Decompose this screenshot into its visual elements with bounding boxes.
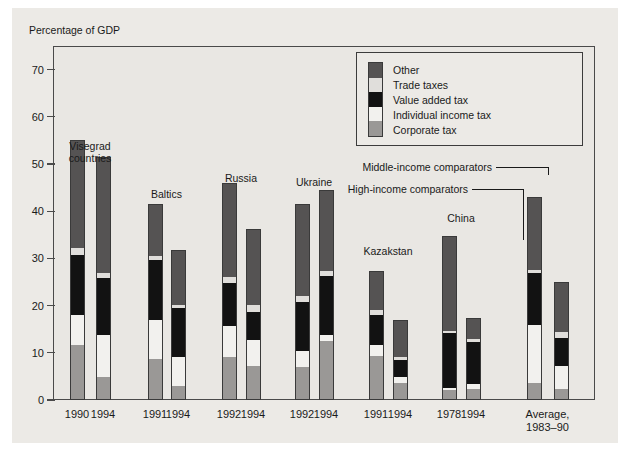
x-tick-label-5: 1994 <box>241 408 265 421</box>
legend-swatch-column <box>368 62 383 137</box>
bar-11-segment-other <box>466 318 481 339</box>
annotation-leader-h-1 <box>472 189 523 190</box>
bar-10 <box>442 236 457 400</box>
bar-2-segment-corp <box>148 359 163 400</box>
bar-4-segment-other <box>222 183 237 277</box>
bar-7-segment-other <box>319 190 334 271</box>
group-label-china: China <box>447 212 474 224</box>
bar-6-segment-iit <box>295 351 310 367</box>
bar-0-segment-corp <box>70 345 85 400</box>
legend: Other Trade taxes Value added tax Indivi… <box>356 52 583 146</box>
bar-0-segment-vat <box>70 255 85 315</box>
bar-13-segment-other <box>554 282 569 332</box>
bar-7 <box>319 190 334 400</box>
bar-6-segment-other <box>295 204 310 296</box>
legend-swatch-corp <box>369 121 382 136</box>
bar-4 <box>222 183 237 400</box>
bar-10-segment-other <box>442 236 457 331</box>
bar-0-segment-iit <box>70 315 85 345</box>
x-tick-label-8: 1991 <box>364 408 388 421</box>
bar-9-segment-vat <box>393 360 408 377</box>
axis-caption: Percentage of GDP <box>29 24 120 36</box>
x-tick-label-7: 1994 <box>314 408 338 421</box>
y-tick-60 <box>47 116 55 117</box>
x-tick-label-11: 1994 <box>461 408 485 421</box>
annotation-leader-v-1 <box>523 189 524 240</box>
legend-swatch-trade <box>369 78 382 93</box>
x-tick-label-9: 1994 <box>388 408 412 421</box>
bar-8-segment-vat <box>369 315 384 345</box>
y-tick-label-70: 70 <box>32 64 44 76</box>
legend-item-trade: Trade taxes <box>393 77 573 92</box>
legend-swatch-vat <box>369 92 382 107</box>
legend-item-other: Other <box>393 62 573 77</box>
bar-3-segment-iit <box>171 357 186 386</box>
y-tick-label-0: 0 <box>38 394 44 406</box>
annotation-label-0: Middle-income comparators <box>0 161 492 173</box>
bar-2 <box>148 204 163 400</box>
bar-1-segment-corp <box>96 377 111 400</box>
y-tick-40 <box>47 211 55 212</box>
y-tick-label-40: 40 <box>32 205 44 217</box>
bar-11-segment-vat <box>466 342 481 384</box>
bar-12-segment-other <box>527 197 542 270</box>
bar-5-segment-other <box>246 229 261 305</box>
bar-2-segment-other <box>148 204 163 255</box>
legend-swatch-other <box>369 63 382 78</box>
legend-label-column: Other Trade taxes Value added tax Indivi… <box>393 62 573 137</box>
y-tick-label-30: 30 <box>32 252 44 264</box>
bar-3-segment-corp <box>171 386 186 400</box>
y-tick-30 <box>47 258 55 259</box>
legend-item-vat: Value added tax <box>393 92 573 107</box>
bar-2-segment-vat <box>148 260 163 320</box>
y-tick-0 <box>47 399 55 400</box>
x-tick-label-10: 1978 <box>437 408 461 421</box>
bar-0 <box>70 140 85 400</box>
group-label-kazakstan: Kazakstan <box>363 245 412 257</box>
y-tick-label-20: 20 <box>32 300 44 312</box>
bar-13-segment-corp <box>554 389 569 400</box>
bar-1-segment-iit <box>96 335 111 377</box>
bar-1-segment-other <box>96 157 111 273</box>
chart-root: Percentage of GDP 010203040506070 Visegr… <box>0 0 630 451</box>
bar-8 <box>369 271 384 400</box>
x-tick-label-2: 1991 <box>143 408 167 421</box>
bar-8-segment-corp <box>369 356 384 400</box>
bar-4-segment-iit <box>222 326 237 357</box>
bar-13-segment-vat <box>554 338 569 365</box>
bar-7-segment-vat <box>319 276 334 335</box>
bar-10-segment-corp <box>442 390 457 400</box>
bar-8-segment-other <box>369 271 384 311</box>
bar-5 <box>246 229 261 400</box>
y-tick-label-10: 10 <box>32 347 44 359</box>
bar-6-segment-corp <box>295 367 310 400</box>
bar-11-segment-corp <box>466 389 481 400</box>
bar-12 <box>527 197 542 400</box>
bar-0-segment-trade <box>70 248 85 255</box>
bar-13-segment-iit <box>554 366 569 389</box>
annotation-leader-h-0 <box>496 167 548 168</box>
bar-7-segment-corp <box>319 341 334 400</box>
bar-2-segment-iit <box>148 320 163 359</box>
bar-4-segment-corp <box>222 357 237 400</box>
bar-1-segment-vat <box>96 278 111 335</box>
legend-item-corp: Corporate tax <box>393 122 573 137</box>
bar-12-segment-vat <box>527 273 542 325</box>
y-tick-label-60: 60 <box>32 111 44 123</box>
x-tick-label-4: 1992 <box>217 408 241 421</box>
legend-swatch-iit <box>369 107 382 122</box>
x-tick-label-3: 1994 <box>166 408 190 421</box>
bar-5-segment-vat <box>246 312 261 340</box>
bar-13 <box>554 282 569 400</box>
bar-3-segment-vat <box>171 308 186 357</box>
x-tick-label-0: 1990 <box>65 408 89 421</box>
bar-12-segment-corp <box>527 383 542 400</box>
y-tick-10 <box>47 352 55 353</box>
bar-6-segment-vat <box>295 302 310 352</box>
bar-5-segment-corp <box>246 366 261 400</box>
bar-9-segment-corp <box>393 383 408 400</box>
y-tick-20 <box>47 305 55 306</box>
x-tick-label-1: 1994 <box>91 408 115 421</box>
x-tick-label-6: 1992 <box>290 408 314 421</box>
bar-9-segment-other <box>393 320 408 357</box>
